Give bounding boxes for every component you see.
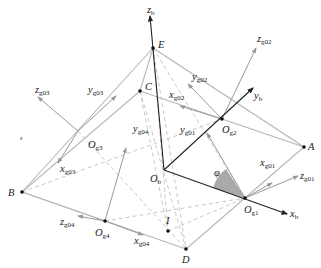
label-I: I	[165, 215, 170, 226]
label-xg03: xg03	[59, 163, 76, 176]
label-xg02: xg02	[168, 89, 185, 102]
label-Ob: Ob	[150, 173, 162, 186]
label-yg03: yg03	[87, 84, 104, 97]
stray-mark: s	[20, 135, 23, 141]
label-Og3: Og3	[88, 139, 103, 152]
label-D: D	[181, 254, 190, 265]
point-A	[302, 145, 306, 149]
label-A: A	[307, 141, 315, 152]
label-zg04: zg04	[59, 216, 75, 229]
label-C: C	[145, 81, 153, 92]
label-yb: yb	[253, 90, 263, 103]
label-yg01: yg01	[179, 124, 196, 137]
point-Og4	[103, 219, 107, 223]
point-I	[166, 229, 170, 233]
label-B: B	[8, 187, 15, 198]
label-Og2: Og2	[222, 124, 237, 137]
point-Og1	[243, 196, 247, 200]
label-phi: φ	[214, 167, 220, 178]
label-zg02: zg02	[256, 33, 272, 46]
label-yg02: yg02	[191, 71, 208, 84]
label-xg01: xg01	[259, 157, 276, 170]
point-Og2	[220, 117, 224, 121]
label-Og1: Og1	[244, 204, 259, 217]
point-D	[184, 247, 188, 251]
label-xg04: xg04	[133, 235, 150, 248]
label-zg03: zg03	[34, 84, 50, 97]
label-yg04: yg04	[132, 123, 149, 136]
label-zg01: zg01	[299, 170, 315, 183]
point-B	[20, 190, 24, 194]
dashed-lines	[22, 48, 304, 249]
label-E: E	[157, 39, 165, 50]
label-Og4: Og4	[95, 227, 110, 240]
label-zb: zb	[146, 4, 155, 17]
label-xb: xb	[289, 208, 299, 221]
point-C	[138, 89, 142, 93]
pyramid-coordinate-diagram: E C A B D I Ob Og1 Og2 Og3 Og4 zb yb xb …	[0, 0, 321, 268]
point-E	[151, 46, 155, 50]
pyramid-frame	[22, 48, 304, 249]
